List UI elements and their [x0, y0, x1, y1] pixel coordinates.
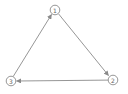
graph-canvas: 1 2 3 [0, 0, 128, 94]
edge-1-to-2 [59, 14, 109, 76]
node-3[interactable]: 3 [6, 76, 16, 86]
node-2-label: 2 [111, 77, 115, 84]
node-1-label: 1 [53, 7, 57, 14]
node-1[interactable]: 1 [50, 5, 60, 15]
edge-3-to-1 [13, 15, 51, 77]
node-3-label: 3 [9, 78, 13, 85]
node-2[interactable]: 2 [108, 75, 118, 85]
edge-2-to-3 [17, 80, 109, 81]
